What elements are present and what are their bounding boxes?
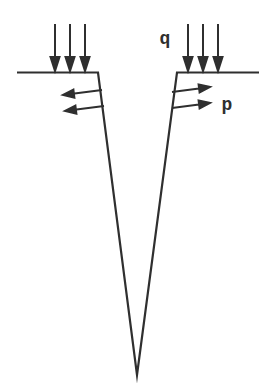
p-load-arrow-group-right [172, 85, 210, 109]
label-q: q [160, 29, 171, 49]
down-arrow-icon [199, 24, 208, 71]
left-arrow-icon [63, 90, 102, 98]
down-arrow-icon [51, 24, 60, 71]
right-arrow-icon [172, 85, 210, 93]
q-load-arrow-group-right [184, 24, 223, 71]
notched-halfplane-load-diagram: q p [0, 0, 270, 390]
down-arrow-icon [214, 24, 223, 71]
down-arrow-icon [81, 24, 90, 71]
right-arrow-icon [172, 101, 210, 109]
q-load-arrow-group-left [51, 24, 90, 71]
label-p: p [222, 95, 233, 115]
left-arrow-icon [65, 106, 104, 114]
diagram-svg: q p [0, 0, 270, 390]
p-load-arrow-group-left [63, 90, 104, 114]
down-arrow-icon [184, 24, 193, 71]
down-arrow-icon [66, 24, 75, 71]
notch-outline [17, 73, 259, 376]
